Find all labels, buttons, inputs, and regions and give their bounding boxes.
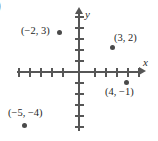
- y-axis-tick: [75, 115, 84, 117]
- x-axis-tick: [40, 68, 42, 77]
- x-axis-tick: [138, 68, 140, 77]
- data-point-label: (3, 2): [114, 33, 137, 44]
- y-axis-tick: [75, 60, 84, 62]
- data-point-label: (4, −1): [105, 87, 134, 98]
- stray-parenthesis-artifact: ): [0, 0, 1, 13]
- coordinate-plane-figure: ) x y (−2, 3)(3, 2)(4, −1)(−5, −4): [0, 0, 158, 141]
- data-point-marker: [110, 45, 115, 50]
- data-point-marker: [124, 80, 129, 85]
- x-axis-tick: [18, 68, 20, 77]
- y-axis-tick: [75, 27, 84, 29]
- x-axis-tick: [127, 68, 129, 77]
- data-point-label: (−2, 3): [21, 26, 50, 37]
- y-axis-line: [78, 13, 80, 131]
- y-axis-tick: [75, 49, 84, 51]
- y-axis-label: y: [85, 9, 90, 20]
- x-axis-tick: [94, 68, 96, 77]
- y-axis-tick: [75, 93, 84, 95]
- y-axis-tick: [75, 126, 84, 128]
- x-axis-tick: [29, 68, 31, 77]
- x-axis-tick: [116, 68, 118, 77]
- x-axis-arrow-icon: [139, 67, 146, 75]
- data-point-marker: [57, 30, 62, 35]
- y-axis-arrow-icon: [75, 7, 83, 14]
- x-axis-label: x: [143, 57, 148, 68]
- y-axis-tick: [75, 104, 84, 106]
- data-point-label: (−5, −4): [8, 108, 43, 119]
- y-axis-tick: [75, 38, 84, 40]
- y-axis-tick: [75, 16, 84, 18]
- data-point-marker: [22, 123, 27, 128]
- y-axis-tick: [75, 82, 84, 84]
- x-axis-tick: [62, 68, 64, 77]
- x-axis-tick: [51, 68, 53, 77]
- x-axis-tick: [105, 68, 107, 77]
